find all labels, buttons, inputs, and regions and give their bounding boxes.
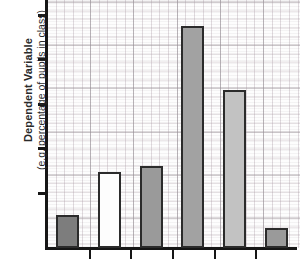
y-axis-title-sub: (e.g. percentage of pupils in class) [35, 10, 47, 170]
bar-6 [265, 228, 288, 248]
graph-paper-grid [47, 0, 300, 248]
x-axis-tick-2 [130, 250, 132, 259]
bar-5 [223, 90, 246, 248]
y-axis-title-main: Dependent Variable [22, 38, 35, 142]
x-axis-tick-1 [89, 250, 91, 259]
y-axis-title: Dependent Variable (e.g. percentage of p… [15, 0, 55, 195]
x-axis-line [45, 247, 297, 250]
x-axis-tick-4 [214, 250, 216, 259]
x-axis-labels [47, 260, 300, 269]
x-axis-tick-5 [255, 250, 257, 259]
bar-2 [98, 172, 121, 248]
bar-4 [181, 26, 204, 248]
x-axis-tick-3 [172, 250, 174, 259]
bar-3 [140, 166, 163, 248]
bar-chart: Dependent Variable (e.g. percentage of p… [0, 0, 300, 269]
bar-1 [56, 215, 79, 248]
